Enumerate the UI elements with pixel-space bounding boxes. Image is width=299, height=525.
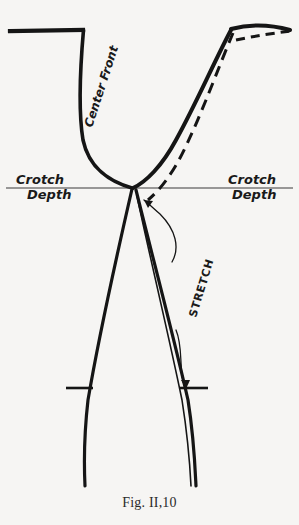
left-inseam-line <box>84 189 132 486</box>
stretch-label: STRETCH <box>186 257 216 319</box>
waistband-right-dashed-edge <box>236 31 291 40</box>
waistband-left-edge <box>10 30 83 31</box>
crotch-depth-right-label-line2: Depth <box>232 187 276 202</box>
crotch-depth-left-label-line1: Crotch <box>16 172 64 187</box>
right-inseam-inner-line <box>137 196 191 486</box>
center-front-label: Center Front <box>82 43 122 129</box>
figure-page: Center Front Crotch Depth Crotch Depth S… <box>0 0 299 525</box>
pattern-diagram: Center Front Crotch Depth Crotch Depth S… <box>0 0 299 525</box>
back-rise-curve <box>133 30 231 188</box>
crotch-depth-right-label-line1: Crotch <box>228 172 276 187</box>
waistband-right-edge <box>231 26 290 30</box>
crotch-depth-left-label-line2: Depth <box>27 187 71 202</box>
figure-caption: Fig. II,10 <box>0 495 299 511</box>
